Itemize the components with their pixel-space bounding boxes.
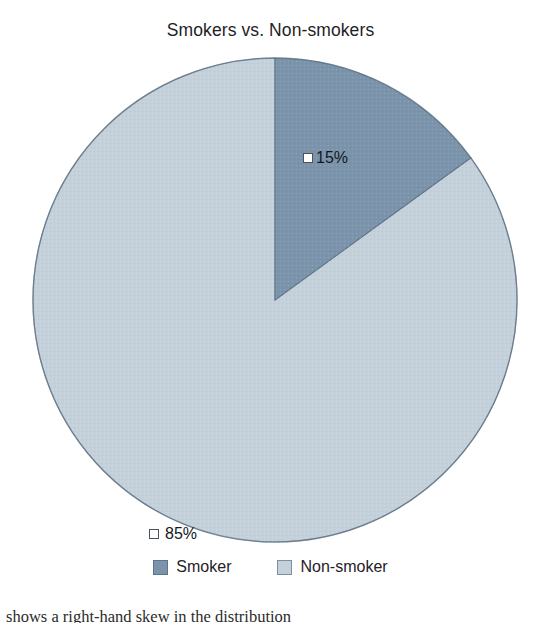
legend-label-non-smoker: Non-smoker [300,558,387,576]
chart-legend: Smoker Non-smoker [0,558,541,576]
data-label-non-smoker: 85% [149,525,197,543]
legend-swatch-non-smoker-icon [277,560,292,575]
data-label-non-smoker-value: 85% [165,525,197,543]
pie-svg [32,57,518,543]
pie-chart-figure: Smokers vs. Non-smokers 15% [0,0,541,623]
legend-item-non-smoker[interactable]: Non-smoker [277,558,387,576]
legend-label-smoker: Smoker [176,558,231,576]
legend-swatch-smoker-icon [153,560,168,575]
legend-item-smoker[interactable]: Smoker [153,558,231,576]
data-label-marker-icon [149,529,159,539]
chart-title: Smokers vs. Non-smokers [0,20,541,41]
data-label-smoker: 15% [303,149,348,167]
pie-chart-area: 15% 85% [32,57,518,543]
data-label-marker-icon [303,153,313,163]
figure-caption: shows a right-hand skew in the distribut… [6,607,436,623]
pie-texture-overlay [33,58,517,542]
data-label-smoker-value: 15% [316,149,348,167]
